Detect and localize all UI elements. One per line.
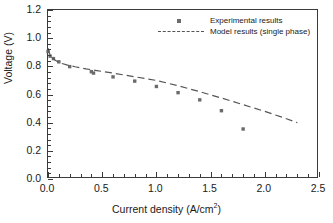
y-tick-minor <box>48 162 51 163</box>
y-tick-major <box>48 179 53 180</box>
y-tick-label: 1.0 <box>1 32 41 43</box>
x-tick-minor <box>59 174 60 177</box>
x-tick-minor <box>276 174 277 177</box>
y-tick-label: 0.2 <box>1 145 41 156</box>
y-tick-minor <box>48 83 51 84</box>
x-tick-minor <box>178 174 179 177</box>
y-tick-major <box>48 123 53 124</box>
y-tick-minor <box>48 16 51 17</box>
y-tick-minor <box>48 21 51 22</box>
y-tick-label: 0.4 <box>1 117 41 128</box>
x-tick-major <box>319 172 320 177</box>
y-tick-minor <box>48 145 51 146</box>
x-tick-label: 0.0 <box>27 183 67 194</box>
y-tick-minor <box>48 156 51 157</box>
legend-label-model: Model results (single phase) <box>204 26 310 37</box>
legend-marker-model <box>158 26 204 37</box>
y-tick-major <box>48 95 53 96</box>
y-tick-minor <box>48 134 51 135</box>
x-axis-title-tail: ) <box>217 203 221 215</box>
x-tick-label: 1.5 <box>190 183 230 194</box>
y-tick-minor <box>48 173 51 174</box>
x-tick-minor <box>135 174 136 177</box>
y-tick-major <box>48 151 53 152</box>
y-tick-minor <box>48 49 51 50</box>
x-tick-label: 0.5 <box>81 183 121 194</box>
x-tick-minor <box>91 174 92 177</box>
square-marker-icon <box>177 19 181 23</box>
model-line <box>48 48 297 123</box>
y-tick-minor <box>48 111 51 112</box>
data-point-marker <box>241 127 244 130</box>
y-tick-major <box>48 66 53 67</box>
x-tick-label: 1.0 <box>135 183 175 194</box>
y-tick-minor <box>48 106 51 107</box>
x-tick-minor <box>243 174 244 177</box>
y-tick-minor <box>48 140 51 141</box>
x-tick-minor <box>254 174 255 177</box>
y-tick-minor <box>48 128 51 129</box>
chart-legend: Experimental results Model results (sing… <box>158 15 310 37</box>
x-tick-major <box>102 172 103 177</box>
x-tick-minor <box>232 174 233 177</box>
x-tick-label: 2.0 <box>244 183 284 194</box>
x-tick-minor <box>189 174 190 177</box>
legend-item-model: Model results (single phase) <box>158 26 310 37</box>
y-tick-minor <box>48 55 51 56</box>
data-point-marker <box>198 98 201 101</box>
y-tick-minor <box>48 27 51 28</box>
x-tick-minor <box>70 174 71 177</box>
x-tick-minor <box>297 174 298 177</box>
x-tick-minor <box>286 174 287 177</box>
legend-label-experimental: Experimental results <box>204 15 282 26</box>
y-tick-major <box>48 10 53 11</box>
data-point-marker <box>176 91 179 94</box>
y-tick-minor <box>48 89 51 90</box>
y-tick-minor <box>48 33 51 34</box>
data-point-marker <box>111 75 114 78</box>
y-tick-minor <box>48 100 51 101</box>
y-tick-minor <box>48 61 51 62</box>
x-tick-minor <box>146 174 147 177</box>
y-tick-minor <box>48 78 51 79</box>
y-tick-label: 0.6 <box>1 89 41 100</box>
y-tick-label: 1.2 <box>1 4 41 15</box>
y-tick-major <box>48 38 53 39</box>
x-tick-major <box>156 172 157 177</box>
y-tick-minor <box>48 44 51 45</box>
x-tick-major <box>265 172 266 177</box>
y-tick-minor <box>48 168 51 169</box>
y-tick-minor <box>48 117 51 118</box>
x-axis-title: Current density (A/cm2) <box>0 202 333 215</box>
x-tick-label: 2.5 <box>298 183 333 194</box>
y-tick-minor <box>48 72 51 73</box>
y-tick-label: 0.0 <box>1 173 41 184</box>
chart-figure: Voltage (V) Current density (A/cm2) 0.00… <box>0 0 333 223</box>
data-point-marker <box>220 109 223 112</box>
x-tick-minor <box>167 174 168 177</box>
y-tick-label: 0.8 <box>1 60 41 71</box>
legend-marker-experimental <box>158 15 204 26</box>
y-axis-title: Voltage (V) <box>2 0 14 118</box>
data-point-marker <box>92 71 95 74</box>
x-tick-minor <box>113 174 114 177</box>
x-tick-minor <box>308 174 309 177</box>
data-point-marker <box>133 79 136 82</box>
x-tick-minor <box>221 174 222 177</box>
x-tick-minor <box>81 174 82 177</box>
dashed-line-icon <box>158 31 204 32</box>
x-axis-title-main: Current density (A/cm <box>112 203 214 215</box>
legend-item-experimental: Experimental results <box>158 15 310 26</box>
x-tick-major <box>211 172 212 177</box>
x-tick-minor <box>200 174 201 177</box>
x-tick-minor <box>124 174 125 177</box>
data-point-marker <box>155 85 158 88</box>
